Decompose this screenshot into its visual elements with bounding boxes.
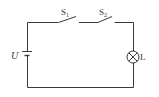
lamp-label: L (140, 52, 146, 62)
wire-bottom (28, 56, 134, 88)
switch-s1-label: S1 (61, 7, 69, 18)
switch-s1-label-sub: 1 (66, 12, 69, 18)
switch-s2-label-sub: 2 (104, 12, 107, 18)
wire-top-left (28, 23, 59, 52)
lamp-icon (127, 51, 139, 63)
battery-icon (22, 52, 32, 56)
wire-right (115, 23, 134, 52)
battery-label: U (11, 50, 19, 61)
circuit-diagram: U S1 S2 L (0, 0, 159, 97)
switch-s2-label: S2 (99, 7, 107, 18)
